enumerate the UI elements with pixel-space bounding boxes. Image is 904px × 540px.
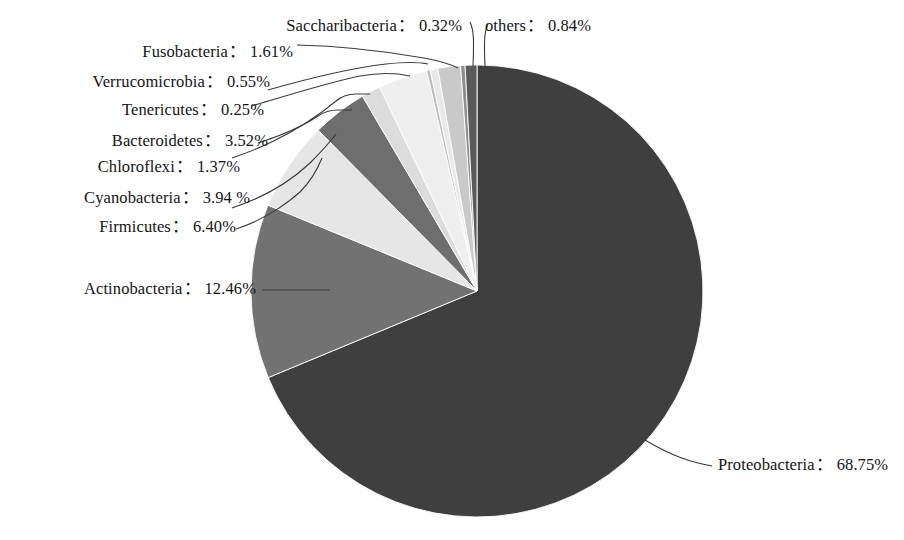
label-others-name: others: [485, 16, 526, 35]
label-tenericutes: Tenericutes：0.25%: [122, 102, 264, 119]
label-proteobacteria-separator: ：: [815, 455, 834, 474]
label-fusobacteria-name: Fusobacteria: [142, 42, 228, 61]
label-tenericutes-separator: ：: [199, 100, 218, 119]
label-firmicutes: Firmicutes：6.40%: [99, 219, 236, 236]
label-cyanobacteria-value: 3.94 %: [200, 188, 250, 207]
label-chloroflexi-name: Chloroflexi: [98, 157, 175, 176]
label-cyanobacteria-name: Cyanobacteria: [84, 188, 181, 207]
label-proteobacteria-value: 68.75%: [834, 455, 888, 474]
label-verrucomicrobia: Verrucomicrobia：0.55%: [93, 74, 271, 91]
label-chloroflexi: Chloroflexi：1.37%: [98, 159, 240, 176]
pie-slice-group: [251, 65, 703, 517]
label-bacteroidetes: Bacteroidetes：3.52%: [112, 133, 268, 150]
label-bacteroidetes-value: 3.52%: [222, 131, 268, 150]
label-verrucomicrobia-separator: ：: [205, 72, 224, 91]
label-others-value: 0.84%: [545, 16, 591, 35]
label-firmicutes-separator: ：: [171, 217, 190, 236]
label-proteobacteria-name: Proteobacteria: [718, 455, 815, 474]
label-firmicutes-name: Firmicutes: [99, 217, 171, 236]
label-chloroflexi-separator: ：: [175, 157, 194, 176]
label-actinobacteria-value: 12.46%: [202, 279, 256, 298]
label-saccharibacteria-separator: ：: [397, 16, 416, 35]
label-verrucomicrobia-value: 0.55%: [224, 72, 270, 91]
label-cyanobacteria: Cyanobacteria：3.94 %: [84, 190, 250, 207]
label-chloroflexi-value: 1.37%: [194, 157, 240, 176]
label-tenericutes-name: Tenericutes: [122, 100, 199, 119]
label-saccharibacteria-name: Saccharibacteria: [286, 16, 397, 35]
leader-line-proteobacteria: [645, 440, 712, 466]
label-saccharibacteria: Saccharibacteria：0.32%: [286, 18, 462, 35]
label-verrucomicrobia-name: Verrucomicrobia: [93, 72, 205, 91]
label-actinobacteria: Actinobacteria：12.46%: [84, 281, 256, 298]
label-bacteroidetes-separator: ：: [203, 131, 222, 150]
label-others: others：0.84%: [485, 18, 591, 35]
label-fusobacteria-value: 1.61%: [247, 42, 293, 61]
label-cyanobacteria-separator: ：: [181, 188, 200, 207]
label-fusobacteria: Fusobacteria：1.61%: [142, 44, 293, 61]
leader-line-saccharibacteria: [470, 22, 474, 66]
label-fusobacteria-separator: ：: [228, 42, 247, 61]
label-saccharibacteria-value: 0.32%: [416, 16, 462, 35]
label-bacteroidetes-name: Bacteroidetes: [112, 131, 203, 150]
label-others-separator: ：: [526, 16, 545, 35]
label-firmicutes-value: 6.40%: [190, 217, 236, 236]
label-actinobacteria-separator: ：: [183, 279, 202, 298]
pie-chart-figure: others：0.84% Saccharibacteria：0.32% Fuso…: [0, 0, 904, 540]
label-proteobacteria: Proteobacteria：68.75%: [718, 457, 888, 474]
label-actinobacteria-name: Actinobacteria: [84, 279, 183, 298]
label-tenericutes-value: 0.25%: [218, 100, 264, 119]
